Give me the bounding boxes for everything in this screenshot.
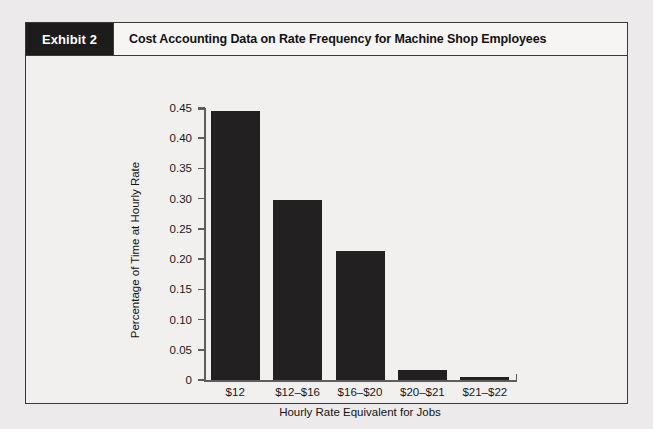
y-axis-title: Percentage of Time at Hourly Rate	[129, 120, 141, 380]
y-axis-tick-label: 0.15	[158, 283, 192, 295]
x-axis-tick-label: $20–$21	[400, 386, 445, 398]
y-axis-tick-label: 0.10	[158, 314, 192, 326]
exhibit-frame: Exhibit 2 Cost Accounting Data on Rate F…	[25, 22, 628, 404]
y-axis-tick-label: 0	[158, 374, 192, 386]
exhibit-title-cell: Cost Accounting Data on Rate Frequency f…	[113, 23, 627, 55]
bar	[211, 111, 260, 380]
y-axis-tick-label: 0.30	[158, 193, 192, 205]
bar	[460, 377, 509, 380]
y-axis-tick-label: 0.20	[158, 253, 192, 265]
x-axis-tick-label: $21–$22	[462, 386, 507, 398]
exhibit-number-badge: Exhibit 2	[26, 23, 113, 55]
bar-chart: 00.050.100.150.200.250.300.350.400.45 Pe…	[26, 56, 627, 403]
y-axis-tick-label: 0.45	[158, 102, 192, 114]
y-axis-tick-label: 0.40	[158, 132, 192, 144]
x-axis-tick-label: $12	[226, 386, 245, 398]
y-axis-tick-label: 0.35	[158, 162, 192, 174]
bar	[336, 251, 385, 380]
exhibit-header: Exhibit 2 Cost Accounting Data on Rate F…	[26, 23, 627, 56]
bar	[398, 370, 447, 380]
bar	[273, 200, 322, 380]
y-axis-tick-label: 0.25	[158, 223, 192, 235]
y-axis-tick-labels: 00.050.100.150.200.250.300.350.400.45	[156, 56, 192, 403]
x-axis-tick-label: $12–$16	[275, 386, 320, 398]
exhibit-title: Cost Accounting Data on Rate Frequency f…	[129, 32, 546, 46]
x-axis-tick-label: $16–$20	[338, 386, 383, 398]
y-axis-tick-label: 0.05	[158, 344, 192, 356]
plot-area	[204, 108, 516, 380]
x-axis-title: Hourly Rate Equivalent for Jobs	[204, 406, 516, 418]
x-axis-line	[204, 380, 517, 382]
x-axis-tick-labels: $12$12–$16$16–$20$20–$21$21–$22	[204, 386, 516, 404]
